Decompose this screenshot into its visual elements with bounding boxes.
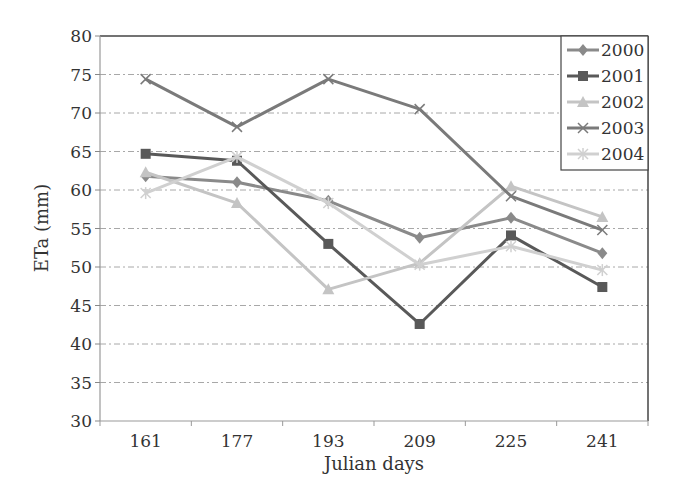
x-tick-label: 241 [586, 431, 618, 451]
legend-label: 2003 [601, 118, 644, 138]
legend-label: 2002 [601, 92, 644, 112]
x-marker-icon [141, 74, 151, 84]
y-tick-label: 80 [70, 26, 92, 46]
square-marker-icon [415, 319, 425, 329]
series-2000 [141, 170, 608, 259]
series-line [146, 157, 603, 270]
x-tick-label: 225 [495, 431, 527, 451]
y-tick-label: 70 [70, 103, 92, 123]
series-2004 [141, 151, 608, 276]
y-tick-label: 40 [70, 334, 92, 354]
series-line [146, 176, 603, 253]
chart-canvas: 3035404550556065707580 16117719320922524… [0, 0, 683, 500]
y-axis-label: ETa (mm) [31, 184, 52, 272]
y-tick-label: 55 [70, 219, 92, 239]
x-tick-label: 209 [403, 431, 435, 451]
diamond-marker-icon [597, 247, 607, 259]
legend: 20002001200220032004 [561, 36, 648, 170]
x-tick-label: 161 [129, 431, 161, 451]
square-marker-icon [506, 230, 516, 240]
legend-label: 2004 [601, 144, 644, 164]
square-marker-icon [141, 149, 151, 159]
triangle-marker-icon [505, 180, 517, 191]
x-tick-label: 177 [221, 431, 253, 451]
legend-label: 2000 [601, 40, 644, 60]
y-tick-label: 45 [70, 296, 92, 316]
x-axis-label: Julian days [322, 453, 424, 474]
square-marker-icon [323, 239, 333, 249]
legend-label: 2001 [601, 66, 644, 86]
y-tick-label: 75 [70, 65, 92, 85]
series-2003 [141, 74, 608, 235]
y-axis-ticks: 3035404550556065707580 [70, 26, 100, 431]
square-marker-icon [597, 282, 607, 292]
x-marker-icon [232, 122, 242, 132]
diamond-marker-icon [232, 176, 242, 188]
diamond-marker-icon [415, 232, 425, 244]
square-marker-icon [578, 71, 588, 81]
series-2001 [141, 149, 608, 329]
y-tick-label: 65 [70, 142, 92, 162]
diamond-marker-icon [506, 212, 516, 224]
line-chart: 3035404550556065707580 16117719320922524… [0, 0, 683, 500]
triangle-marker-icon [140, 166, 152, 177]
x-axis-ticks: 161177193209225241 [100, 421, 648, 451]
series-2002 [140, 166, 609, 294]
series-line [146, 79, 603, 230]
y-tick-label: 35 [70, 373, 92, 393]
y-tick-label: 60 [70, 180, 92, 200]
x-tick-label: 193 [312, 431, 344, 451]
y-tick-label: 30 [70, 411, 92, 431]
y-tick-label: 50 [70, 257, 92, 277]
data-series [140, 74, 609, 329]
